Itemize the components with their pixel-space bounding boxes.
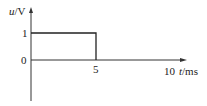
y-tick-1: 1 [22,27,28,39]
pulse-waveform [31,33,96,60]
x-axis-arrow-icon [180,58,187,62]
x-tick-10: 10 [164,65,176,77]
x-tick-5: 5 [93,63,99,75]
y-tick-0: 0 [21,54,27,66]
pulse-chart: u/V 1 0 5 10 t/ms [0,0,207,106]
x-axis-label: t/ms [179,65,198,77]
y-axis-label: u/V [9,5,26,17]
y-axis-arrow-icon [29,7,33,13]
